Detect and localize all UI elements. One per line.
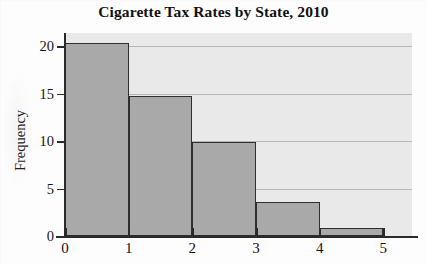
y-tick-label: 10 [2, 134, 54, 149]
bar [129, 96, 193, 236]
y-tick-label: 5 [2, 182, 54, 197]
x-tick-mark [129, 228, 131, 237]
x-tick-mark [192, 228, 194, 237]
bar [192, 142, 256, 236]
x-tick-mark [65, 228, 67, 237]
bars-layer [65, 33, 412, 236]
chart-title: Cigarette Tax Rates by State, 2010 [0, 3, 427, 21]
y-tick-label: 20 [2, 39, 54, 54]
x-tick-label: 3 [241, 241, 271, 256]
x-tick-label: 1 [114, 241, 144, 256]
y-tick-mark [57, 189, 65, 191]
x-tick-label: 2 [177, 241, 207, 256]
bar [256, 202, 320, 236]
y-axis-line [64, 33, 66, 237]
x-tick-mark [256, 228, 258, 237]
x-tick-mark [320, 228, 322, 237]
x-axis-line [56, 236, 418, 238]
y-tick-label: 15 [2, 87, 54, 102]
x-tick-label: 0 [50, 241, 80, 256]
bar [320, 228, 384, 237]
x-tick-mark [383, 228, 385, 237]
plot-area [65, 33, 412, 236]
y-tick-label: 0 [2, 229, 54, 244]
x-tick-label: 4 [305, 241, 335, 256]
y-tick-mark [57, 46, 65, 48]
x-tick-label: 5 [368, 241, 398, 256]
y-tick-mark [57, 94, 65, 96]
y-tick-mark [57, 236, 65, 238]
y-tick-mark [57, 141, 65, 143]
histogram-chart: Cigarette Tax Rates by State, 2010 Frequ… [0, 0, 427, 264]
bar [65, 43, 129, 237]
